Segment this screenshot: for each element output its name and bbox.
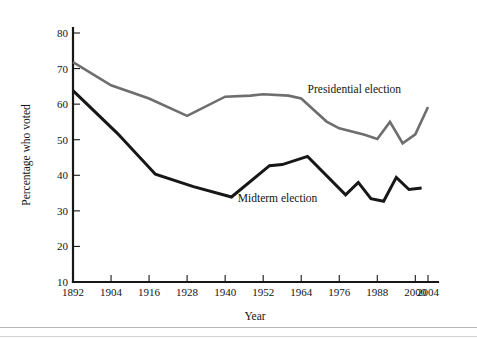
x-axis-tick-labels: 1892190419161928194019521964197619882000… (62, 286, 440, 298)
x-tick-label: 1988 (366, 286, 389, 298)
x-tick-label: 1892 (62, 286, 84, 298)
y-tick-label: 60 (57, 98, 69, 110)
y-tick-label: 20 (57, 240, 69, 252)
y-tick-label: 80 (57, 27, 69, 39)
x-tick-label: 1964 (290, 286, 313, 298)
presidential-series-label: Presidential election (308, 83, 402, 95)
y-tick-label: 30 (57, 205, 69, 217)
x-axis-title: Year (244, 310, 265, 322)
x-tick-label: 2004 (417, 286, 440, 298)
y-tick-label: 40 (57, 169, 69, 181)
x-tick-label: 1904 (100, 286, 123, 298)
y-tick-label: 50 (57, 134, 69, 146)
series-line-midterm-election (73, 91, 422, 202)
series-line-presidential-election (73, 62, 428, 143)
y-axis-title: Percentage who voted (20, 104, 33, 206)
voter-turnout-line-chart: 1020304050607080 18921904191619281940195… (0, 0, 477, 338)
midterm-series-label: Midterm election (238, 192, 318, 204)
x-tick-label: 1916 (138, 286, 161, 298)
page-divider-top (0, 327, 477, 328)
y-tick-label: 70 (57, 63, 69, 75)
y-axis-tick-labels: 1020304050607080 (57, 27, 69, 288)
x-tick-label: 1928 (176, 286, 199, 298)
x-tick-label: 1952 (252, 286, 274, 298)
chart-figure: 1020304050607080 18921904191619281940195… (0, 0, 477, 338)
page-divider-bottom (0, 336, 477, 337)
x-tick-label: 1940 (214, 286, 237, 298)
x-tick-label: 1976 (328, 286, 351, 298)
